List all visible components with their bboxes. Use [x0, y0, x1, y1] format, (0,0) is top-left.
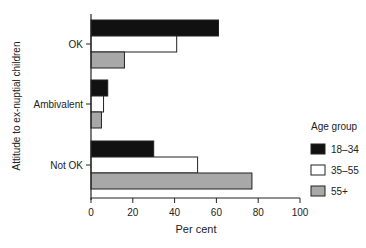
x-tick-label: 40 [169, 207, 181, 218]
bar-not-ok-1 [91, 157, 198, 173]
bar-not-ok-0 [91, 141, 154, 157]
legend-title: Age group [311, 121, 358, 132]
y-axis-label: Attitude to ex-nuptial children [11, 42, 22, 171]
y-category-label: Ambivalent [34, 99, 84, 110]
legend-swatch [311, 165, 325, 175]
bar-ambivalent-2 [91, 112, 101, 128]
legend: Age group 18–3435–5555+ [311, 121, 359, 197]
bar-not-ok-2 [91, 173, 252, 189]
bar-chart: 020406080100 OKAmbivalentNot OK Per cent… [0, 0, 366, 248]
bar-ok-1 [91, 36, 177, 52]
bar-ok-0 [91, 20, 218, 36]
x-tick-label: 20 [127, 207, 139, 218]
y-axis-categories: OKAmbivalentNot OK [34, 39, 91, 171]
legend-label: 18–34 [331, 144, 359, 155]
legend-swatch [311, 186, 325, 196]
bar-ambivalent-0 [91, 80, 108, 96]
y-category-label: Not OK [50, 160, 83, 171]
legend-label: 35–55 [331, 165, 359, 176]
x-tick-label: 0 [88, 207, 94, 218]
y-category-label: OK [69, 39, 84, 50]
legend-label: 55+ [331, 186, 348, 197]
x-tick-label: 80 [253, 207, 265, 218]
bar-ambivalent-1 [91, 96, 104, 112]
x-axis-label: Per cent [176, 223, 217, 235]
x-axis-ticks: 020406080100 [88, 198, 309, 218]
bar-ok-2 [91, 52, 124, 68]
bars-group [91, 20, 252, 189]
x-tick-label: 60 [211, 207, 223, 218]
legend-swatch [311, 144, 325, 154]
x-tick-label: 100 [292, 207, 309, 218]
